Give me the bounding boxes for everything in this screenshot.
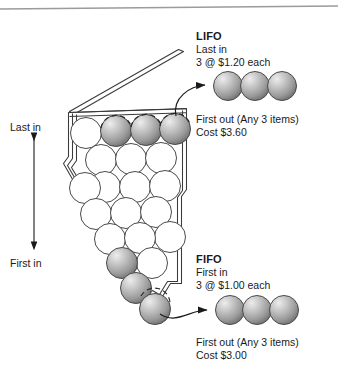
fifo-heading: FIFO bbox=[196, 253, 222, 266]
lifo-output-description: First out (Any 3 items)Cost $3.60 bbox=[196, 113, 299, 138]
lifo-fifo-inventory-diagram: LIFO Last in3 @ $1.20 each First out (An… bbox=[0, 0, 346, 374]
diagram-artwork bbox=[0, 0, 346, 374]
lifo-input-description: Last in3 @ $1.20 each bbox=[196, 43, 270, 68]
axis-label-last-in: Last in bbox=[10, 121, 41, 134]
lifo-cost: Cost $3.60 bbox=[196, 126, 247, 138]
fifo-cost: Cost $3.00 bbox=[196, 349, 247, 361]
bin-item-white bbox=[71, 118, 102, 149]
fifo-out-label: First out (Any 3 items) bbox=[196, 336, 299, 348]
fifo-input-description: First in3 @ $1.00 each bbox=[196, 266, 270, 291]
fifo-output-items bbox=[216, 296, 299, 325]
lifo-in-label: Last in bbox=[196, 43, 227, 55]
fifo-unit-cost: 3 @ $1.00 each bbox=[196, 279, 270, 291]
lifo-unit-cost: 3 @ $1.20 each bbox=[196, 56, 270, 68]
lifo-heading: LIFO bbox=[196, 30, 222, 43]
fifo-in-label: First in bbox=[196, 266, 228, 278]
lifo-output-items bbox=[214, 72, 297, 101]
top-divider-rule bbox=[0, 6, 338, 9]
fifo-output-description: First out (Any 3 items)Cost $3.00 bbox=[196, 336, 299, 361]
lifo-out-label: First out (Any 3 items) bbox=[196, 113, 299, 125]
bin-item-fifo-pick bbox=[140, 294, 171, 325]
axis-label-first-in: First in bbox=[10, 257, 42, 270]
